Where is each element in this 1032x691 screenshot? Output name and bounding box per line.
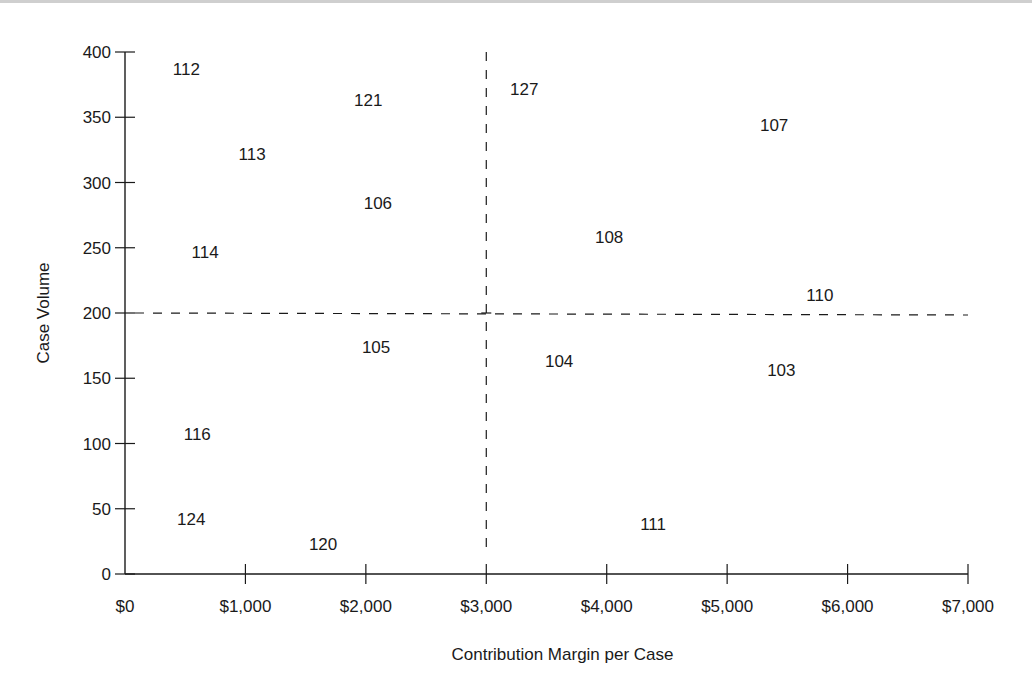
- x-tick-label: $0: [116, 597, 135, 616]
- point-label-104: 104: [545, 352, 573, 371]
- point-label-121: 121: [354, 91, 382, 110]
- point-label-110: 110: [806, 286, 833, 305]
- y-tick-label: 300: [83, 174, 111, 193]
- point-label-124: 124: [177, 510, 205, 529]
- y-tick-label: 250: [83, 239, 111, 258]
- reference-lines: [135, 52, 968, 556]
- y-tick-label: 50: [92, 500, 111, 519]
- y-tick-label: 400: [83, 43, 111, 62]
- y-axis-title: Case Volume: [34, 262, 53, 363]
- horizontal-reference-line: [135, 313, 968, 315]
- point-label-103: 103: [767, 361, 795, 380]
- x-tick-label: $2,000: [340, 597, 392, 616]
- point-label-120: 120: [309, 535, 337, 554]
- point-labels: 1121211271071131061081141101051041031161…: [173, 60, 834, 554]
- point-label-113: 113: [238, 145, 265, 164]
- point-label-105: 105: [362, 338, 390, 357]
- y-tick-label: 100: [83, 435, 111, 454]
- x-tick-label: $4,000: [581, 597, 633, 616]
- x-tick-label: $6,000: [822, 597, 874, 616]
- y-tick-label: 350: [83, 108, 111, 127]
- point-label-111: 111: [640, 515, 666, 534]
- y-tick-label: 150: [83, 369, 111, 388]
- point-label-107: 107: [760, 116, 788, 135]
- y-tick-label: 0: [102, 565, 111, 584]
- x-tick-label: $7,000: [942, 597, 994, 616]
- x-tick-label: $1,000: [219, 597, 271, 616]
- y-tick-label: 200: [83, 304, 111, 323]
- point-label-116: 116: [184, 425, 211, 444]
- point-label-127: 127: [510, 80, 538, 99]
- axes: 050100150200250300350400$0$1,000$2,000$3…: [83, 43, 994, 616]
- x-tick-label: $3,000: [460, 597, 512, 616]
- scatter-chart: 050100150200250300350400$0$1,000$2,000$3…: [0, 0, 1032, 691]
- x-tick-label: $5,000: [701, 597, 753, 616]
- x-axis-title: Contribution Margin per Case: [451, 645, 673, 664]
- point-label-112: 112: [173, 60, 200, 79]
- point-label-108: 108: [595, 228, 623, 247]
- point-label-106: 106: [364, 194, 392, 213]
- point-label-114: 114: [192, 243, 219, 262]
